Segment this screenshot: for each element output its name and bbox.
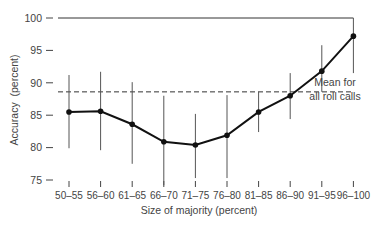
x-tick-label: 81–85 xyxy=(245,190,273,201)
x-tick-label: 66–70 xyxy=(150,190,178,201)
data-point xyxy=(98,109,104,115)
data-point xyxy=(319,68,325,74)
x-tick-label: 76–80 xyxy=(213,190,241,201)
data-point xyxy=(66,109,72,115)
y-axis-title: Accuracy (percent) xyxy=(8,54,20,145)
data-point xyxy=(256,109,262,115)
x-tick-label: 86–90 xyxy=(276,190,304,201)
data-point xyxy=(193,142,199,148)
y-tick-label: 95 xyxy=(30,44,42,56)
data-point xyxy=(351,33,357,39)
mean-label-line2: all roll calls xyxy=(309,90,360,102)
x-tick-label: 61–65 xyxy=(118,190,146,201)
y-axis: 7580859095100 xyxy=(24,12,53,186)
data-point xyxy=(161,139,167,145)
x-tick-label: 56–60 xyxy=(87,190,115,201)
y-tick-label: 85 xyxy=(30,109,42,121)
y-tick-label: 75 xyxy=(30,174,42,186)
x-tick-label: 96–100 xyxy=(337,190,371,201)
x-axis-title: Size of majority (percent) xyxy=(141,204,258,216)
accuracy-chart: 7580859095100 50–5556–6061–6566–7071–757… xyxy=(0,0,386,227)
y-tick-label: 80 xyxy=(30,141,42,153)
data-point xyxy=(129,121,135,127)
y-tick-label: 90 xyxy=(30,77,42,89)
y-tick-label: 100 xyxy=(24,12,42,24)
mean-label-line1: Mean for xyxy=(314,76,356,88)
data-point xyxy=(224,132,230,138)
x-tick-label: 71–75 xyxy=(181,190,209,201)
x-tick-label: 91–95 xyxy=(308,190,336,201)
x-tick-label: 50–55 xyxy=(55,190,83,201)
data-point xyxy=(287,93,293,99)
x-axis: 50–5556–6061–6566–7071–7576–8081–8586–90… xyxy=(55,181,370,201)
